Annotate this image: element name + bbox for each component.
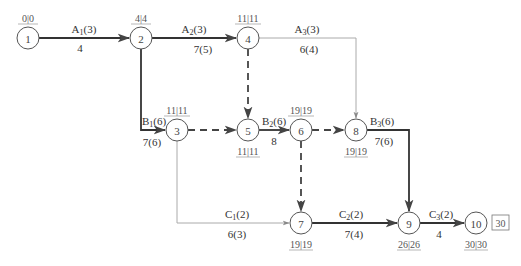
node-7-time: 19|19 [290,239,312,250]
activity-a1-duration: 4 [77,42,83,54]
node-2-time: 4|4 [135,13,147,24]
node-5-label: 5 [245,125,251,137]
node-3-time: 11|11 [166,105,187,116]
node-10: 10 [465,212,487,234]
node-4: 4 [237,27,259,49]
node-9-label: 9 [406,218,412,230]
activity-b2-duration: 8 [271,135,277,147]
node-3: 3 [166,119,188,141]
activity-c3-duration: 4 [436,228,442,240]
activity-c2-duration: 7(4) [345,228,364,241]
activity-a2-duration: 7(5) [194,43,213,56]
node-6-label: 6 [298,125,304,137]
activity-b3-duration: 7(6) [375,135,394,148]
network-diagram: 1 2 3 4 5 6 7 8 9 10 30 0|0 4|4 [0,0,521,266]
activity-a3-duration: 6(4) [300,43,319,56]
final-time-box: 30 [492,215,509,230]
arrow-c1 [177,141,289,223]
node-10-label: 10 [471,218,483,230]
node-8-label: 8 [353,125,359,137]
activity-b3-label: B3(6) [370,115,395,129]
activity-b2-label: B2(6) [262,115,287,129]
activity-c1-duration: 6(3) [228,228,247,241]
node-5: 5 [237,119,259,141]
node-2-label: 2 [138,33,144,45]
node-9: 9 [398,212,420,234]
node-2: 2 [130,27,152,49]
node-4-label: 4 [245,33,251,45]
final-time-value: 30 [496,218,506,229]
activity-b1-duration: 7(6) [143,136,162,149]
node-5-time: 11|11 [237,146,258,157]
activity-c1-label: C1(2) [225,208,250,222]
node-10-time: 30|30 [465,239,487,250]
node-1-label: 1 [25,33,31,45]
node-4-time: 11|11 [237,13,258,24]
activity-c2-label: C2(2) [339,208,364,222]
node-8: 8 [345,119,367,141]
activity-a3-label: A3(3) [295,23,320,37]
node-1: 1 [17,27,39,49]
node-3-label: 3 [174,125,180,137]
node-8-time: 19|19 [345,146,367,157]
node-1-time: 0|0 [22,13,34,24]
activity-b1-label: B1(6) [142,115,167,129]
activity-c3-label: C3(2) [429,208,454,222]
activity-a1-label: A1(3) [72,23,97,37]
node-9-time: 26|26 [398,239,420,250]
activity-a2-label: A2(3) [182,23,207,37]
node-6: 6 [290,119,312,141]
node-7-label: 7 [298,218,304,230]
node-6-time: 19|19 [290,105,312,116]
node-7: 7 [290,212,312,234]
